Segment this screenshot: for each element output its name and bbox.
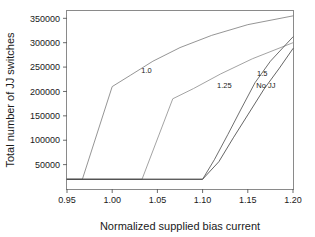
series-label-1-25: 1.25 (217, 81, 232, 90)
data-series-group (67, 16, 293, 179)
line-chart-svg: 5000010000015000020000025000030000035000… (0, 0, 315, 237)
y-tick-label: 150000 (30, 111, 60, 121)
series-label-1-0: 1.0 (141, 66, 151, 75)
y-tick-label: 250000 (30, 62, 60, 72)
x-tick-label: 1.15 (239, 195, 257, 205)
y-tick-label: 200000 (30, 87, 60, 97)
x-axis-title: Normalized supplied bias current (100, 220, 260, 232)
series-label-1-5: 1.5 (257, 69, 267, 78)
x-tick-label: 1.20 (284, 195, 302, 205)
series-line-1-25 (67, 43, 293, 180)
y-tick-label: 350000 (30, 14, 60, 24)
x-tick-label: 1.10 (194, 195, 212, 205)
plot-frame (67, 11, 294, 190)
series-annotation-group: 1.01.251.5No JJ (141, 66, 275, 90)
y-tick-label: 50000 (35, 160, 60, 170)
y-tick-label: 300000 (30, 38, 60, 48)
series-line-1-5 (67, 37, 293, 179)
x-axis-tick-labels: 0.951.001.051.101.151.20 (58, 195, 302, 205)
x-tick-label: 1.00 (103, 195, 121, 205)
x-tick-label: 0.95 (58, 195, 76, 205)
y-axis-tick-labels: 5000010000015000020000025000030000035000… (30, 14, 60, 170)
series-label-no-jj: No JJ (256, 81, 275, 90)
x-tick-label: 1.05 (149, 195, 167, 205)
chart-figure: 5000010000015000020000025000030000035000… (0, 0, 315, 237)
y-tick-label: 100000 (30, 135, 60, 145)
y-axis-title: Total number of JJ switches (4, 32, 16, 168)
